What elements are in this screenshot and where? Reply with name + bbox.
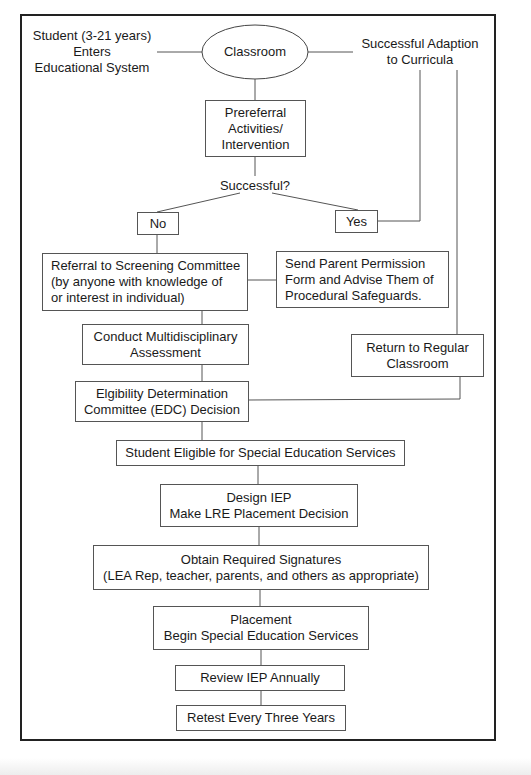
signatures-node[interactable]: Obtain Required Signatures (LEA Rep, tea…	[93, 545, 429, 590]
page-bottom-shadow	[0, 758, 531, 775]
decision-label: Successful?	[205, 178, 305, 194]
assessment-node[interactable]: Conduct Multidisciplinary Assessment	[82, 324, 249, 365]
review-node[interactable]: Review IEP Annually	[175, 665, 345, 691]
return-classroom-node[interactable]: Return to Regular Classroom	[351, 334, 484, 377]
success-label: Successful Adaption to Curricula	[355, 36, 485, 68]
eligible-node[interactable]: Student Eligible for Special Education S…	[116, 440, 405, 466]
edc-node[interactable]: Elgibility Determination Committee (EDC)…	[75, 381, 249, 422]
flowchart-canvas: Student (3-21 years) Enters Educational …	[0, 0, 531, 775]
yes-node[interactable]: Yes	[335, 210, 378, 233]
parent-permission-node[interactable]: Send Parent Permission Form and Advise T…	[276, 251, 449, 308]
prereferral-node[interactable]: Prereferral Activities/ Intervention	[205, 100, 306, 157]
retest-node[interactable]: Retest Every Three Years	[176, 705, 346, 731]
placement-node[interactable]: Placement Begin Special Education Servic…	[153, 606, 369, 650]
no-node[interactable]: No	[137, 212, 179, 235]
classroom-node[interactable]: Classroom	[205, 44, 305, 60]
entry-label: Student (3-21 years) Enters Educational …	[28, 28, 156, 76]
referral-node[interactable]: Referral to Screening Committee (by anyo…	[42, 253, 248, 311]
design-iep-node[interactable]: Design IEP Make LRE Placement Decision	[160, 484, 358, 527]
